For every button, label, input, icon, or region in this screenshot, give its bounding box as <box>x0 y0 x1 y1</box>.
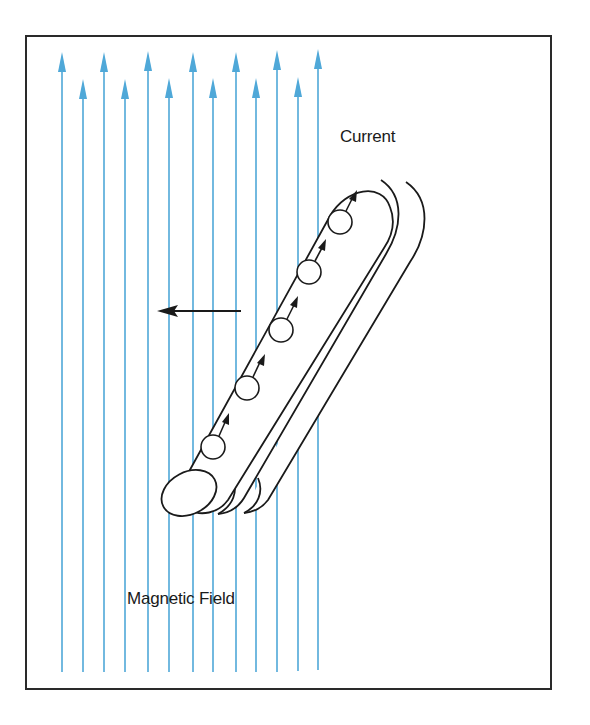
current-label: Current <box>340 127 395 147</box>
field-line-icon <box>121 79 129 672</box>
conductor <box>154 180 425 525</box>
magnetic-field-label: Magnetic Field <box>127 589 235 609</box>
diagram-canvas <box>0 0 590 725</box>
field-line-icon <box>100 52 108 672</box>
field-line-icon <box>189 52 197 672</box>
field-line-icon <box>58 52 66 672</box>
field-line-icon <box>209 78 217 672</box>
field-line-icon <box>144 51 152 672</box>
field-line-icon <box>232 52 240 672</box>
field-line-icon <box>165 78 173 672</box>
field-line-icon <box>79 79 87 672</box>
